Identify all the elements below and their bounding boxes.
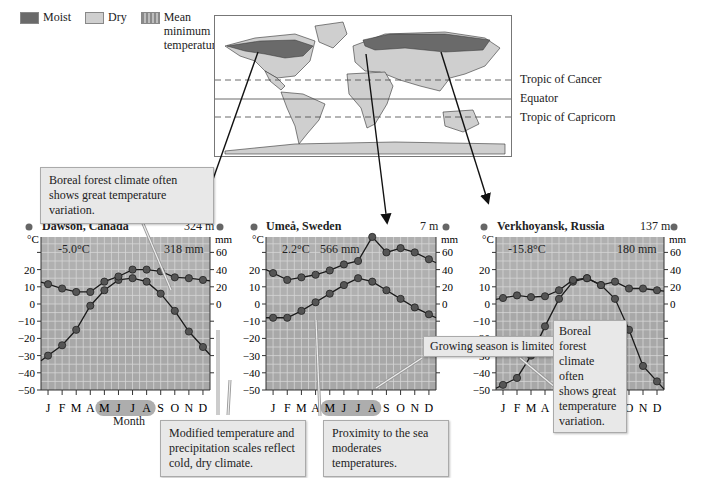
callout-boreal-variation-right: Boreal forest climate often shows great … xyxy=(553,320,627,433)
callout-growing-season: Growing season is limited. xyxy=(423,336,566,357)
callout-proximity-sea: Proximity to the sea moderates temperatu… xyxy=(323,420,449,477)
callout-modified-scales: Modified temperature and precipitation s… xyxy=(160,420,306,477)
callout-boreal-variation: Boreal forest climate often shows great … xyxy=(40,167,214,224)
